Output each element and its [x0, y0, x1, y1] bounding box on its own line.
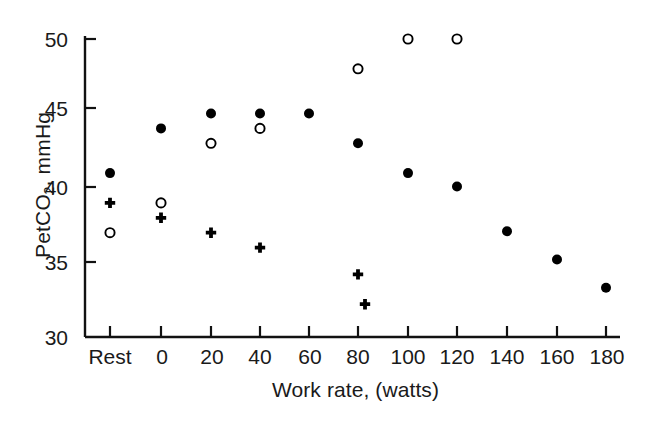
data-point-filled-circle [156, 123, 166, 133]
data-point-filled-circle [353, 138, 363, 148]
x-axis-ticks [110, 326, 606, 337]
data-point-plus [255, 242, 265, 252]
data-point-open-circle [452, 34, 461, 43]
data-point-plus [156, 213, 166, 223]
y-axis-ticks [85, 39, 96, 262]
data-point-plus [105, 198, 115, 208]
data-point-plus [353, 269, 363, 279]
data-point-plus [206, 228, 216, 238]
data-point-filled-circle [502, 226, 512, 236]
data-point-filled-circle [403, 168, 413, 178]
data-point-open-circle [105, 228, 114, 237]
chart-figure: PetCO2, mmHg 50 45 40 35 30 Rest 0 20 40… [0, 0, 663, 426]
data-point-filled-circle [552, 255, 562, 265]
data-point-filled-circle [255, 109, 265, 119]
data-point-filled-circle [304, 109, 314, 119]
data-point-open-circle [353, 64, 362, 73]
data-point-open-circle [206, 139, 215, 148]
data-point-filled-circle [601, 283, 611, 293]
data-markers [105, 34, 611, 309]
plot-area [0, 0, 663, 426]
data-point-filled-circle [206, 109, 216, 119]
data-point-plus [360, 299, 370, 309]
data-point-open-circle [156, 198, 165, 207]
data-point-filled-circle [105, 168, 115, 178]
data-point-open-circle [255, 124, 264, 133]
data-point-open-circle [403, 34, 412, 43]
data-point-filled-circle [452, 182, 462, 192]
